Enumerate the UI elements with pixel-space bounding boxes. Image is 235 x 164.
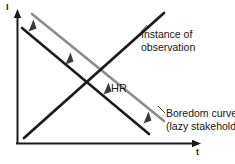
gap-arrow-4 bbox=[144, 112, 152, 124]
instance-of-observation-label-line1: Instance of bbox=[141, 28, 195, 41]
boredom-curve-label-line1: Boredom curve bbox=[166, 107, 235, 120]
y-axis-arrowhead bbox=[14, 9, 21, 18]
boredom-curve-label-line2: (lazy stakeholder) bbox=[166, 120, 235, 133]
y-axis-label: I bbox=[6, 3, 9, 12]
hr-label: HR bbox=[111, 82, 127, 95]
boredom-curve-diagram: I t Instance of observation Boredom curv… bbox=[0, 0, 235, 164]
x-axis bbox=[16, 140, 201, 147]
leader-boredom bbox=[158, 106, 165, 113]
gap-arrow-2 bbox=[66, 53, 74, 65]
gap-arrows bbox=[29, 20, 152, 124]
gap-arrow-1 bbox=[29, 20, 37, 32]
boredom-curve-label: Boredom curve (lazy stakeholder) bbox=[166, 107, 235, 132]
y-axis bbox=[14, 9, 21, 144]
x-axis-label: t bbox=[196, 148, 199, 157]
instance-of-observation-label-line2: observation bbox=[141, 41, 195, 54]
instance-of-observation-label: Instance of observation bbox=[141, 28, 195, 53]
